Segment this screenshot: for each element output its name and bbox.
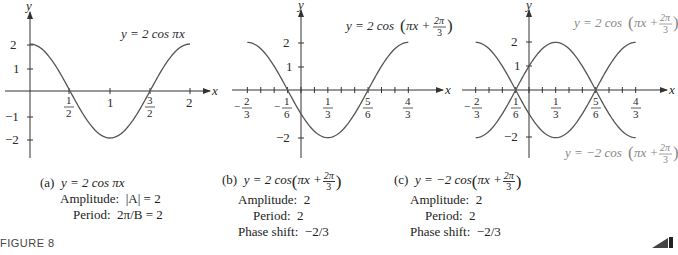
y-tick-neg1: −1 bbox=[5, 109, 19, 124]
svg-text:1: 1 bbox=[66, 94, 72, 106]
amplitude-label: Amplitude: bbox=[238, 192, 297, 207]
x-tick-neg-two-thirds: −23 bbox=[234, 95, 252, 120]
svg-text:1: 1 bbox=[325, 95, 331, 107]
y-tick-2: 2 bbox=[511, 34, 518, 49]
y-tick-1: 1 bbox=[514, 58, 521, 73]
caption-tag: (b) bbox=[222, 172, 237, 187]
svg-text:5: 5 bbox=[593, 95, 599, 107]
svg-text:5: 5 bbox=[365, 95, 371, 107]
x-tick-neg-two-thirds: −23 bbox=[464, 95, 482, 120]
x-tick-five-sixths: 56 bbox=[591, 95, 601, 120]
panel-a-graph: x y 2 1 −1 −2 1 2 1 3 2 2 y = 2 cos πx bbox=[5, 0, 218, 158]
x-tick-1: 1 bbox=[107, 95, 114, 110]
panel-b-graph: x y 2 1 −2 −23 −16 13 56 43 y = 2 cos ( … bbox=[232, 0, 453, 158]
svg-text:3: 3 bbox=[553, 108, 559, 120]
svg-text:3: 3 bbox=[633, 108, 639, 120]
svg-text:): ) bbox=[673, 13, 678, 32]
svg-text:6: 6 bbox=[593, 108, 599, 120]
equation-label-a: y = 2 cos πx bbox=[119, 26, 185, 41]
svg-text:3: 3 bbox=[437, 27, 442, 38]
x-tick-half: 1 2 bbox=[64, 94, 74, 119]
equation-label-c-bottom: y = −2 cos ( πx + 2π 3 ) bbox=[563, 142, 678, 165]
caption-tag: (a) bbox=[40, 175, 54, 190]
amplitude-value: 2 bbox=[304, 192, 311, 207]
x-tick-five-sixths: 56 bbox=[363, 95, 373, 120]
svg-text:2π: 2π bbox=[660, 12, 671, 23]
svg-text:3: 3 bbox=[244, 108, 250, 120]
svg-text:πx +: πx + bbox=[406, 18, 430, 33]
svg-text:6: 6 bbox=[365, 108, 371, 120]
amplitude-value: 2 bbox=[476, 192, 483, 207]
svg-text:2: 2 bbox=[147, 107, 153, 119]
amplitude-label: Amplitude: bbox=[60, 191, 119, 206]
svg-text:1: 1 bbox=[513, 95, 519, 107]
caption-a: (a) y = 2 cos πx Amplitude: |A| = 2 Peri… bbox=[40, 175, 163, 223]
x-axis-label: x bbox=[668, 82, 675, 97]
svg-text:): ) bbox=[673, 143, 678, 162]
caption-equation-prefix: y = 2 cos bbox=[244, 172, 292, 187]
svg-text:πx +: πx + bbox=[634, 145, 658, 160]
x-tick-one-third: 13 bbox=[551, 95, 561, 120]
amplitude-label: Amplitude: bbox=[410, 192, 469, 207]
x-tick-2: 2 bbox=[186, 95, 193, 110]
svg-text:2: 2 bbox=[66, 107, 72, 119]
svg-text:y = 2 cos: y = 2 cos bbox=[344, 18, 394, 33]
y-tick-2: 2 bbox=[283, 35, 290, 50]
figure-label: FIGURE 8 bbox=[0, 237, 55, 249]
amplitude-value: |A| = 2 bbox=[126, 191, 161, 206]
fraction: 2π3 bbox=[323, 171, 335, 192]
x-axis-label: x bbox=[211, 83, 218, 98]
svg-text:1: 1 bbox=[284, 95, 290, 107]
period-label: Period: bbox=[253, 208, 291, 223]
page-corner-marker-icon bbox=[652, 237, 674, 249]
caption-equation-inner: πx + bbox=[478, 172, 502, 187]
phase-value: −2/3 bbox=[477, 224, 501, 239]
y-tick-1: 1 bbox=[13, 61, 20, 76]
svg-text:−: − bbox=[274, 100, 280, 112]
y-axis-label: y bbox=[524, 0, 532, 12]
y-tick-1: 1 bbox=[286, 59, 293, 74]
svg-text:y = −2 cos: y = −2 cos bbox=[563, 145, 622, 160]
y-tick-neg2: −2 bbox=[276, 130, 290, 145]
svg-text:2π: 2π bbox=[660, 142, 671, 153]
fraction: 2π3 bbox=[503, 171, 515, 192]
x-tick-labels: −23 −16 13 56 43 bbox=[234, 95, 413, 120]
period-label: Period: bbox=[425, 208, 463, 223]
y-axis-label: y bbox=[296, 0, 304, 12]
caption-b: (b) y = 2 cos(πx +2π3) Amplitude: 2 Peri… bbox=[222, 171, 341, 240]
equation-label-b: y = 2 cos ( πx + 2π 3 ) bbox=[344, 15, 453, 38]
svg-text:πx +: πx + bbox=[634, 15, 658, 30]
x-tick-neg-one-sixth: −16 bbox=[274, 95, 292, 120]
x-tick-four-thirds: 43 bbox=[403, 95, 413, 120]
y-tick-neg2: −2 bbox=[504, 129, 518, 144]
x-tick-four-thirds: 43 bbox=[631, 95, 641, 120]
caption-equation-prefix: y = −2 cos bbox=[415, 172, 472, 187]
svg-text:): ) bbox=[447, 16, 453, 35]
x-tick-labels: −23 16 13 56 43 bbox=[464, 95, 641, 120]
phase-value: −2/3 bbox=[305, 224, 329, 239]
caption-tag: (c) bbox=[394, 172, 408, 187]
svg-text:−: − bbox=[464, 100, 470, 112]
svg-text:−: − bbox=[234, 100, 240, 112]
x-tick-one-sixth: 16 bbox=[511, 95, 521, 120]
svg-text:4: 4 bbox=[633, 95, 639, 107]
period-value: 2 bbox=[297, 208, 304, 223]
y-tick-2: 2 bbox=[10, 37, 17, 52]
svg-text:2π: 2π bbox=[434, 15, 445, 26]
svg-text:3: 3 bbox=[663, 24, 668, 35]
svg-text:y = 2 cos: y = 2 cos bbox=[572, 15, 622, 30]
y-axis-label: y bbox=[24, 0, 32, 13]
svg-text:1: 1 bbox=[553, 95, 559, 107]
svg-text:2: 2 bbox=[244, 95, 250, 107]
svg-text:4: 4 bbox=[405, 95, 411, 107]
caption-equation: y = 2 cos πx bbox=[61, 175, 125, 190]
svg-text:6: 6 bbox=[513, 108, 519, 120]
panel-c-graph: x y 2 1 −2 −23 16 13 56 43 y = 2 cos ( π… bbox=[462, 0, 678, 165]
x-axis-label: x bbox=[444, 82, 451, 97]
svg-text:3: 3 bbox=[474, 108, 480, 120]
svg-text:3: 3 bbox=[405, 108, 411, 120]
svg-text:3: 3 bbox=[663, 154, 668, 165]
svg-text:3: 3 bbox=[325, 108, 331, 120]
equation-label-c-top: y = 2 cos ( πx + 2π 3 ) bbox=[572, 12, 678, 35]
caption-c: (c) y = −2 cos(πx +2π3) Amplitude: 2 Per… bbox=[394, 171, 522, 240]
